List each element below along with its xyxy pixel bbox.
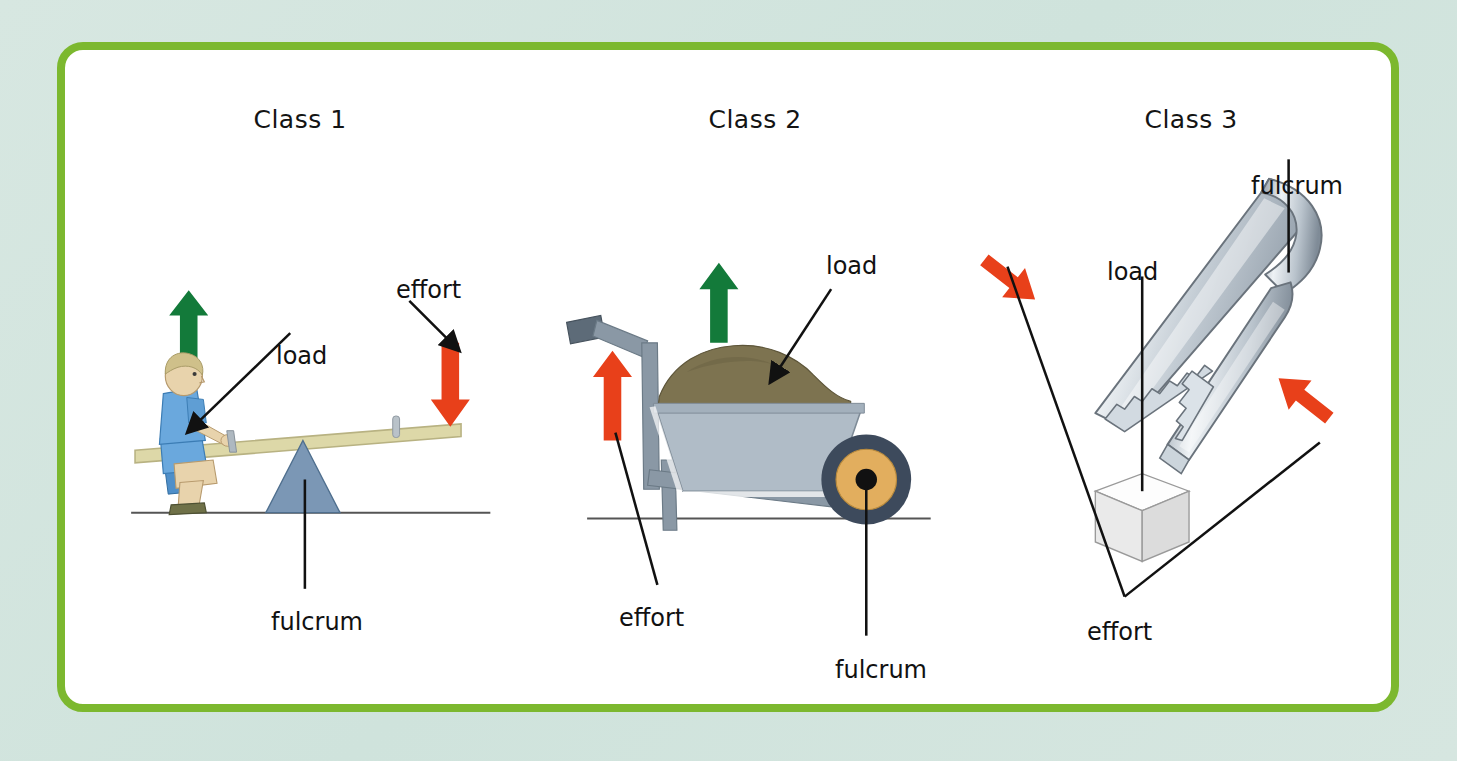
class-2-illustration	[535, 50, 975, 704]
leader-line-effort	[409, 301, 447, 339]
load-arrow-up-icon	[699, 263, 738, 343]
leader-line-effort-left	[1007, 267, 1124, 597]
label-load-class-1: load	[276, 342, 327, 370]
label-fulcrum-class-3: fulcrum	[1251, 172, 1343, 200]
label-load-class-3: load	[1107, 258, 1158, 286]
label-fulcrum-class-2: fulcrum	[835, 656, 927, 684]
child-figure	[159, 353, 236, 515]
effort-arrow-up-icon	[593, 351, 632, 441]
label-fulcrum-class-1: fulcrum	[271, 608, 363, 636]
effort-arrow-down-icon	[431, 343, 470, 427]
leader-line-load	[779, 289, 831, 368]
panel-class-1: Class 1	[65, 50, 535, 704]
effort-arrow-lower-icon	[1267, 364, 1341, 433]
diagram-root: Class 1	[0, 0, 1457, 761]
diagram-frame: Class 1	[57, 42, 1399, 712]
class-1-illustration	[65, 50, 535, 704]
panel-class-2: Class 2	[535, 50, 975, 704]
label-effort-class-1: effort	[396, 276, 461, 304]
effort-arrow-upper-icon	[973, 245, 1047, 314]
label-load-class-2: load	[826, 252, 877, 280]
label-effort-class-3: effort	[1087, 618, 1152, 646]
label-effort-class-2: effort	[619, 604, 684, 632]
class-3-illustration	[975, 50, 1407, 704]
panel-class-3: Class 3	[975, 50, 1407, 704]
